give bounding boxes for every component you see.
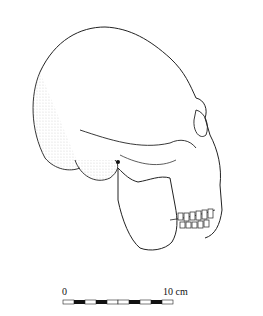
cranium-outline <box>40 27 222 238</box>
mandible <box>118 168 177 250</box>
zygomatic-arch <box>80 130 196 148</box>
mastoid-region <box>75 160 118 180</box>
orbit <box>194 110 207 137</box>
teeth <box>178 209 213 228</box>
scale-end-label: 10 cm <box>163 286 188 297</box>
scale-bar <box>63 300 173 304</box>
scale-start-label: 0 <box>62 286 67 297</box>
skull-illustration <box>0 0 263 316</box>
